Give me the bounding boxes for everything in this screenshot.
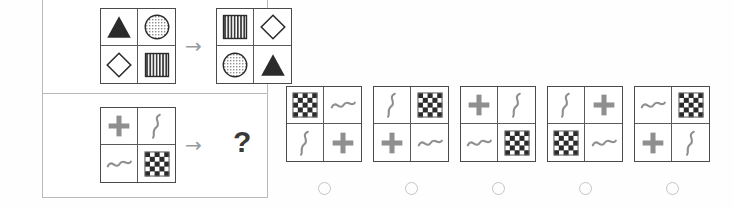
checkerboard-icon (503, 129, 531, 157)
squiggle-icon (378, 91, 406, 119)
striped-square-icon (143, 51, 171, 79)
tilde-icon (105, 150, 133, 178)
matrix-cell-plus (374, 124, 411, 161)
matrix-cell-outline-diamond (101, 46, 138, 83)
option-5[interactable] (634, 86, 710, 162)
plus-icon (639, 129, 667, 157)
striped-square-icon (221, 13, 249, 41)
outline-diamond-icon (105, 51, 133, 79)
plus-icon (329, 129, 357, 157)
matrix-cell-squiggle (138, 108, 175, 145)
filled-triangle-icon (259, 51, 287, 79)
checkerboard-icon (552, 129, 580, 157)
matrix-cell-tilde (585, 124, 622, 161)
matrix-cell-dotted-circle (217, 46, 254, 83)
option-3[interactable] (460, 86, 536, 162)
matrix-cell-outline-diamond (254, 9, 291, 46)
matrix-cell-plus (461, 87, 498, 124)
tilde-icon (639, 91, 667, 119)
option-2[interactable] (373, 86, 449, 162)
matrix-cell-squiggle (672, 124, 709, 161)
matrix-cell-tilde (635, 87, 672, 124)
option-radio-a[interactable] (318, 182, 331, 195)
checkerboard-icon (677, 91, 705, 119)
matrix-cell-striped-square (138, 46, 175, 83)
matrix-cell-tilde (461, 124, 498, 161)
filled-triangle-icon (105, 13, 133, 41)
matrix-cell-squiggle (548, 87, 585, 124)
checkerboard-icon (143, 150, 171, 178)
problem-row: → ? (43, 94, 267, 197)
problem-arrow-icon: → (185, 135, 202, 155)
matrix-cell-checkerboard (498, 124, 535, 161)
plus-icon (465, 91, 493, 119)
tilde-icon (416, 129, 444, 157)
plus-icon (378, 129, 406, 157)
example-arrow-icon: → (185, 36, 202, 56)
squiggle-icon (143, 112, 171, 140)
matrix-cell-plus (635, 124, 672, 161)
matrix-cell-checkerboard (138, 145, 175, 182)
matrix-cell-tilde (101, 145, 138, 182)
matrix-cell-squiggle (374, 87, 411, 124)
question-panel: → → ? (42, 0, 268, 198)
matrix-cell-filled-triangle (254, 46, 291, 83)
matrix-cell-plus (101, 108, 138, 145)
option-1[interactable] (286, 86, 362, 162)
checkerboard-icon (416, 91, 444, 119)
plus-icon (590, 91, 618, 119)
matrix-cell-checkerboard (411, 87, 448, 124)
tilde-icon (590, 129, 618, 157)
squiggle-icon (552, 91, 580, 119)
problem-source-matrix (100, 107, 176, 183)
matrix-cell-squiggle (498, 87, 535, 124)
plus-icon (105, 112, 133, 140)
squiggle-icon (677, 129, 705, 157)
matrix-cell-dotted-circle (138, 9, 175, 46)
matrix-cell-filled-triangle (101, 9, 138, 46)
option-radio-c[interactable] (492, 182, 505, 195)
option-radio-d[interactable] (579, 182, 592, 195)
option-4[interactable] (547, 86, 623, 162)
tilde-icon (465, 129, 493, 157)
matrix-cell-tilde (411, 124, 448, 161)
squiggle-icon (291, 129, 319, 157)
dotted-circle-icon (143, 13, 171, 41)
matrix-cell-checkerboard (287, 87, 324, 124)
matrix-cell-tilde (324, 87, 361, 124)
example-source-matrix (100, 8, 176, 84)
matrix-cell-striped-square (217, 9, 254, 46)
tilde-icon (329, 91, 357, 119)
matrix-cell-checkerboard (548, 124, 585, 161)
checkerboard-icon (291, 91, 319, 119)
dotted-circle-icon (221, 51, 249, 79)
matrix-cell-checkerboard (672, 87, 709, 124)
answer-placeholder: ? (233, 127, 251, 157)
squiggle-icon (503, 91, 531, 119)
matrix-cell-squiggle (287, 124, 324, 161)
example-row: → (43, 0, 267, 94)
matrix-cell-plus (585, 87, 622, 124)
matrix-cell-plus (324, 124, 361, 161)
option-radio-b[interactable] (405, 182, 418, 195)
option-radio-e[interactable] (666, 182, 679, 195)
example-target-matrix (216, 8, 292, 84)
outline-diamond-icon (259, 13, 287, 41)
